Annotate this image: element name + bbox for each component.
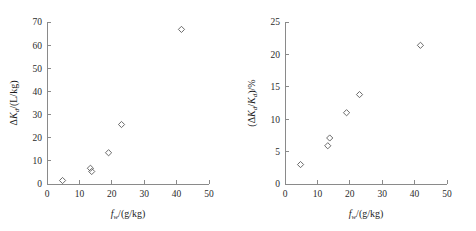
data-point-marker (327, 135, 333, 141)
data-point-marker (59, 177, 65, 183)
data-point-marker (343, 110, 349, 116)
y-axis-tick-label: 60 (33, 41, 43, 51)
x-axis-tick-label: 40 (172, 189, 182, 199)
y-axis-title: (ΔKd/Kd)/% (246, 79, 259, 126)
x-axis-tick-label: 0 (283, 189, 288, 199)
y-axis-tick-label: 50 (33, 64, 43, 74)
y-axis-tick-label: 25 (271, 17, 281, 27)
chart-panel-left: 01020304050607001020304050fw/(g/kg)ΔKd/(… (0, 0, 238, 231)
y-axis-tick-label: 10 (271, 115, 281, 125)
x-axis-tick-label: 20 (345, 189, 355, 199)
data-point-marker (89, 168, 95, 174)
y-axis-tick-label: 20 (271, 50, 281, 60)
y-axis-title: ΔKd/(L/kg) (8, 81, 21, 126)
data-point-marker (105, 150, 111, 156)
x-axis-title: fw/(g/kg) (349, 208, 384, 221)
chart-panel-right: 051015202501020304050fw/(g/kg)(ΔKd/Kd)/% (238, 0, 476, 231)
data-point-marker (178, 26, 184, 32)
scatter-plot-right: 051015202501020304050fw/(g/kg)(ΔKd/Kd)/% (238, 0, 476, 231)
y-axis-tick-label: 70 (33, 17, 43, 27)
x-axis-tick-label: 20 (107, 189, 117, 199)
x-axis-tick-label: 50 (204, 189, 214, 199)
data-point-marker (297, 161, 303, 167)
x-axis-tick-label: 50 (442, 189, 452, 199)
y-axis-tick-label: 40 (33, 87, 43, 97)
y-axis-tick-label: 0 (275, 179, 280, 189)
data-point-marker (356, 91, 362, 97)
y-axis-tick-label: 20 (33, 133, 43, 143)
y-axis-tick-label: 0 (37, 179, 42, 189)
x-axis-tick-label: 30 (139, 189, 149, 199)
x-axis-tick-label: 10 (313, 189, 323, 199)
data-point-marker (118, 121, 124, 127)
y-axis-tick-label: 15 (271, 82, 281, 92)
x-axis-tick-label: 10 (75, 189, 85, 199)
data-point-marker (417, 42, 423, 48)
data-point-marker (87, 165, 93, 171)
figure-container: 01020304050607001020304050fw/(g/kg)ΔKd/(… (0, 0, 476, 231)
y-axis-tick-label: 10 (33, 156, 43, 166)
x-axis-tick-label: 40 (410, 189, 420, 199)
y-axis-tick-label: 5 (275, 147, 280, 157)
scatter-plot-left: 01020304050607001020304050fw/(g/kg)ΔKd/(… (0, 0, 238, 231)
x-axis-tick-label: 30 (377, 189, 387, 199)
data-point-marker (325, 143, 331, 149)
y-axis-tick-label: 30 (33, 110, 43, 120)
x-axis-tick-label: 0 (45, 189, 50, 199)
x-axis-title: fw/(g/kg) (111, 208, 146, 221)
